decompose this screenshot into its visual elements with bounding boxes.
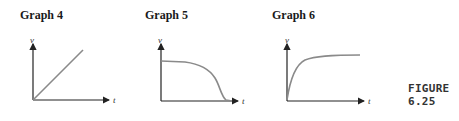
figure-label: FIGURE 6.25 [408, 82, 459, 108]
graph-6-y-label: v [285, 35, 289, 45]
graph-4-y-label: v [30, 35, 34, 45]
graph-6: v t [285, 35, 371, 106]
graph-6-x-label: t [368, 96, 371, 106]
graph-5-curve [161, 61, 232, 101]
graph-5-y-label: v [158, 35, 162, 45]
velocity-time-graphs: v t v t v t [0, 0, 459, 121]
graph-4: v t [30, 35, 116, 105]
graph-4-curve [33, 50, 83, 100]
graph-4-x-label: t [113, 95, 116, 105]
graph-5: v t [158, 35, 245, 106]
graph-5-x-label: t [242, 96, 245, 106]
graph-6-curve [287, 55, 360, 100]
